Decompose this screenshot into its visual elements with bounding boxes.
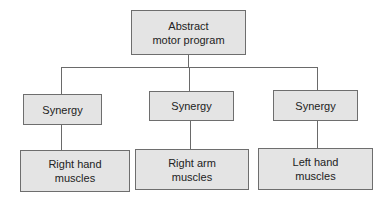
synergy-node-1: Synergy [23,94,102,125]
abstract-motor-program-node: Abstract motor program [131,10,246,55]
node-label-line2: muscles [168,170,216,184]
node-label-line1: Abstract [152,19,224,33]
node-label-line2: muscles [293,169,339,183]
synergy-node-3: Synergy [273,90,358,121]
connector-synergy-3-to-muscles [317,120,318,148]
node-label-line1: Left hand [293,155,339,169]
connector-synergy-2-to-muscles [190,120,191,149]
connector-to-synergy-1 [61,67,62,94]
node-label-line2: muscles [48,171,101,185]
connector-synergy-1-to-muscles [61,124,62,150]
synergy-label: Synergy [171,99,211,113]
connector-to-synergy-3 [317,67,318,90]
synergy-node-2: Synergy [149,91,234,121]
node-label-line2: motor program [152,33,224,47]
node-label-line1: Right arm [168,156,216,170]
left-hand-muscles-node: Left hand muscles [258,148,373,190]
synergy-label: Synergy [42,103,82,117]
synergy-label: Synergy [295,99,335,113]
node-label-line1: Right hand [48,157,101,171]
right-arm-muscles-node: Right arm muscles [135,149,249,190]
connector-root-down [188,54,189,68]
connector-to-synergy-2 [189,67,190,91]
right-hand-muscles-node: Right hand muscles [20,150,130,192]
